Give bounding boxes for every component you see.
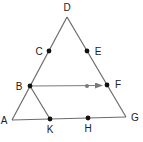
segment-ag (12, 117, 126, 120)
point-c (47, 49, 52, 54)
label-f: F (115, 79, 121, 90)
triangle-edges (12, 17, 126, 120)
label-c: C (35, 46, 42, 57)
label-a: A (1, 115, 8, 126)
segment-ad (12, 17, 67, 120)
segment-bk (30, 86, 50, 119)
point-h (86, 116, 91, 121)
segment-dg (67, 17, 126, 117)
arrow-b-to-f (30, 84, 102, 88)
point-f (105, 83, 110, 88)
label-k: K (47, 124, 54, 135)
point-b (28, 84, 33, 89)
point-k (48, 117, 53, 122)
label-b: B (16, 81, 23, 92)
point-e (85, 49, 90, 54)
arrow-line (30, 86, 102, 87)
label-e: E (95, 46, 102, 57)
triangle-diagram: DCEBFAGKH (0, 0, 143, 142)
label-h: H (84, 123, 91, 134)
arrow-dot (85, 84, 89, 88)
label-g: G (131, 112, 139, 123)
label-d: D (63, 2, 70, 13)
